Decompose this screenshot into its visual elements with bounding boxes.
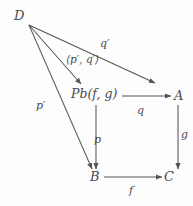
node-label-pullback: Pb(f, g) [71, 88, 117, 101]
commutative-diagram: D Pb(f, g) A B C q′ ⟨p′, q′⟩ p′ q p g f [0, 0, 193, 206]
edge-label-p: p [94, 134, 101, 145]
node-label-c: C [164, 170, 174, 183]
node-label-b: B [90, 170, 100, 183]
edge-label-p-prime: p′ [36, 100, 46, 111]
edge-label-q: q [137, 105, 144, 116]
edge-label-f: f [129, 185, 133, 196]
node-label-d: D [14, 9, 24, 22]
edge-label-pair-p-prime-q-prime: ⟨p′, q′⟩ [66, 54, 99, 65]
edge-label-g: g [181, 129, 188, 140]
edge-label-q-prime: q′ [100, 38, 110, 49]
node-label-a: A [174, 89, 183, 102]
